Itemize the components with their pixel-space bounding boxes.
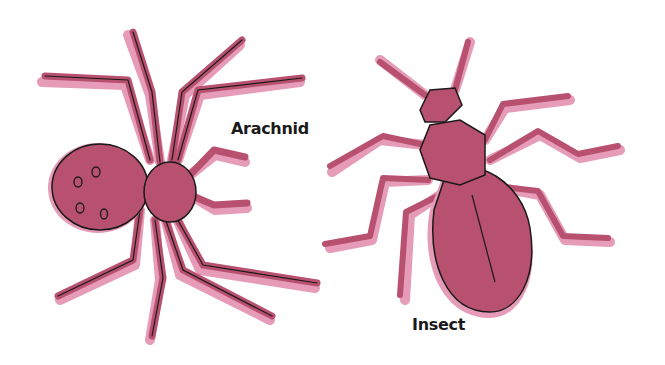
arachnid-label: Arachnid [231,119,309,138]
insect-label: Insect [412,315,465,334]
arachnid-vs-insect-diagram: Arachnid Insect [0,0,665,365]
ant-illustration [325,42,620,318]
spider-illustration [42,32,317,340]
